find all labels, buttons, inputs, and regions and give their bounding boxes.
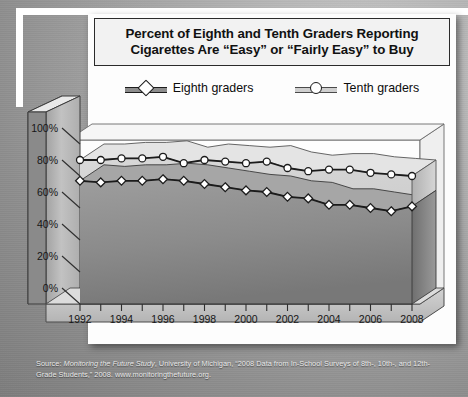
tenth-marker (160, 153, 167, 160)
source-italic-title: Monitoring the Future Study (64, 359, 155, 368)
x-tick-label: 2002 (276, 313, 300, 325)
x-tick-label: 2000 (234, 313, 258, 325)
tenth-marker (284, 165, 291, 172)
tenth-marker (388, 171, 395, 178)
legend-swatch-tenth-icon (295, 84, 337, 92)
tenth-marker (139, 155, 146, 162)
x-tick-label: 2008 (400, 313, 424, 325)
chart-title-box: Percent of Eighth and Tenth Graders Repo… (94, 18, 450, 66)
legend-swatch-eighth-icon (125, 84, 167, 92)
y-tick-label: 60% (37, 186, 58, 198)
tenth-marker (326, 166, 333, 173)
page-title: Percent of Eighth and Tenth Graders Repo… (95, 26, 449, 57)
tenth-marker (77, 157, 84, 164)
y-tick-label: 80% (37, 154, 58, 166)
chart-area: 0%20%40%60%80%100% 199219941996199820002… (16, 92, 456, 344)
y-tick-label: 100% (31, 122, 58, 134)
plot-group (76, 141, 436, 304)
tenth-marker (346, 166, 353, 173)
tenth-marker (263, 158, 270, 165)
tenth-marker (97, 157, 104, 164)
tenth-marker (305, 168, 312, 175)
tenth-marker (180, 160, 187, 167)
x-tick-label: 2004 (317, 313, 341, 325)
y-tick-label: 0% (43, 282, 58, 294)
tenth-marker (118, 155, 125, 162)
x-tick-label: 2006 (359, 313, 383, 325)
tenth-marker (222, 158, 229, 165)
x-tick-label: 1996 (151, 313, 175, 325)
tenth-marker (201, 157, 208, 164)
y-tick-label: 20% (37, 250, 58, 262)
x-tick-label: 1994 (110, 313, 134, 325)
x-tick-label: 1998 (193, 313, 217, 325)
tenth-marker (243, 160, 250, 167)
source-note: Source: Monitoring the Future Study, Uni… (36, 358, 448, 380)
x-tick-label: 1992 (68, 313, 92, 325)
area-chart-svg: 0%20%40%60%80%100% 199219941996199820002… (16, 92, 456, 344)
x-axis: 199219941996199820002002200420062008 (68, 304, 424, 325)
y-tick-label: 40% (37, 218, 58, 230)
tenth-marker (409, 173, 416, 180)
tenth-marker (367, 169, 374, 176)
source-prefix: Source: (36, 359, 64, 368)
